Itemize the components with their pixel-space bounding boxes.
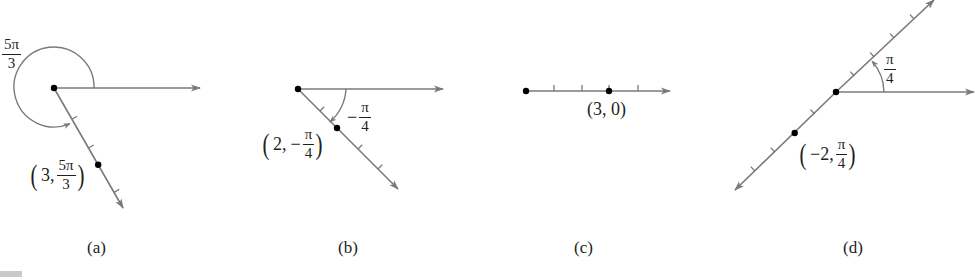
right-paren: )	[849, 139, 856, 169]
point-r: −2,	[810, 145, 834, 163]
panel-a-angle-label: 5π3	[2, 37, 21, 72]
angle-sign: −	[347, 108, 357, 126]
tick-mark	[378, 165, 382, 169]
panel-b-point-label: ( 2, − π4 )	[261, 127, 324, 162]
tick-mark	[850, 72, 854, 76]
pole-point	[833, 89, 839, 95]
tick-mark	[320, 107, 324, 111]
right-paren: )	[77, 160, 84, 190]
point-theta-denominator: 4	[305, 145, 313, 162]
polar-point	[95, 162, 101, 168]
panel-a-point-label: ( 3, 5π3 )	[29, 158, 86, 193]
point-theta-numerator: π	[836, 137, 848, 155]
tick-mark	[114, 189, 119, 192]
tick-mark	[89, 145, 94, 148]
panel-b-caption: (b)	[338, 238, 358, 258]
angle-denominator: 4	[361, 118, 369, 135]
point-r: 2,	[273, 135, 287, 153]
figure-title-fragment	[0, 271, 22, 277]
angle-arc-arrow	[872, 61, 884, 92]
point-r: 3,	[41, 166, 55, 184]
angle-numerator: π	[884, 52, 896, 70]
angle-arc-arrow	[330, 89, 346, 122]
angle-denominator: 3	[8, 55, 16, 72]
tick-mark	[810, 110, 814, 114]
panel-d-point-label: ( −2, π4 )	[798, 137, 857, 172]
right-paren: )	[316, 129, 323, 159]
polar-point	[334, 125, 340, 131]
angle-numerator: π	[359, 100, 371, 118]
tick-mark	[72, 116, 77, 119]
tick-mark	[358, 145, 362, 149]
tick-mark	[751, 167, 755, 171]
panel-c-caption: (c)	[574, 238, 593, 258]
tick-mark	[771, 148, 775, 152]
point-theta-numerator: 5π	[57, 158, 76, 176]
left-paren: (	[800, 139, 807, 169]
angle-numerator: 5π	[4, 36, 19, 52]
tick-mark	[910, 15, 914, 19]
polar-point	[792, 130, 798, 136]
point-theta-numerator: π	[303, 127, 315, 145]
panel-a-caption: (a)	[87, 238, 106, 258]
pole-point	[523, 88, 529, 94]
left-paren: (	[263, 129, 270, 159]
pole-point	[51, 85, 57, 91]
panel-c-point-label: (3, 0)	[587, 100, 626, 118]
pole-point	[295, 86, 301, 92]
panel-b-angle-label: − π4	[345, 100, 371, 135]
point-theta-denominator: 3	[62, 176, 70, 193]
point-theta-sign: −	[291, 135, 301, 153]
point-theta-denominator: 4	[838, 155, 846, 172]
tick-mark	[890, 34, 894, 38]
polar-point	[606, 88, 612, 94]
panel-d-caption: (d)	[843, 238, 863, 258]
panel-d-angle-label: π4	[884, 52, 896, 87]
angle-denominator: 4	[886, 70, 894, 87]
left-paren: (	[31, 160, 38, 190]
tick-mark	[870, 53, 874, 57]
panel-c-diagram	[523, 85, 670, 94]
